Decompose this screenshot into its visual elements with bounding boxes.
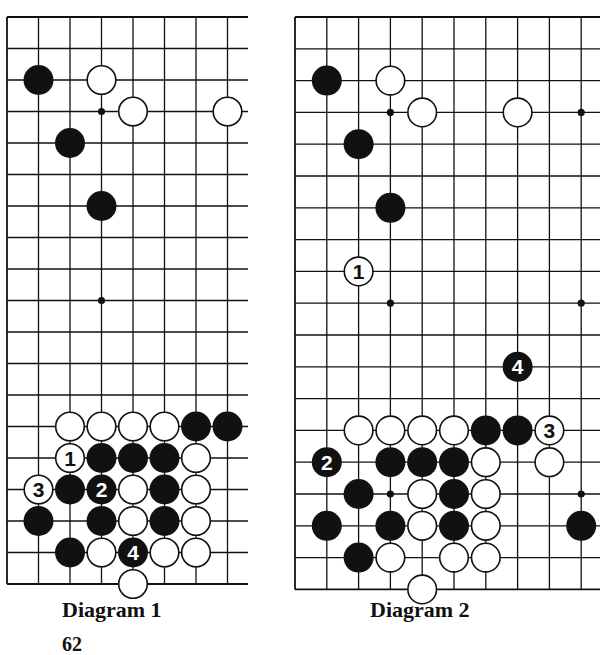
black-stone (471, 415, 501, 445)
diagram-1-caption: Diagram 1 (62, 597, 162, 623)
white-stone (472, 480, 501, 509)
white-stone (376, 416, 405, 445)
svg-text:3: 3 (544, 419, 556, 442)
star-point-icon (387, 300, 394, 307)
black-stone (344, 479, 374, 509)
svg-text:1: 1 (353, 260, 365, 283)
black-stone-move-2: 2 (312, 447, 342, 477)
white-stone-move-1: 1 (344, 257, 373, 286)
white-stone (376, 66, 405, 95)
white-stone (472, 512, 501, 541)
star-point-icon (578, 109, 585, 116)
svg-text:2: 2 (321, 451, 333, 474)
black-stone-move-4: 4 (503, 352, 533, 382)
black-stone (312, 511, 342, 541)
white-stone (535, 448, 564, 477)
white-stone (440, 543, 469, 572)
star-point-icon (578, 490, 585, 497)
black-stone (439, 447, 469, 477)
white-stone (472, 543, 501, 572)
go-board-diagram-2: 1432 (0, 0, 611, 610)
white-stone (440, 416, 469, 445)
black-stone (439, 479, 469, 509)
white-stone-move-3: 3 (535, 416, 564, 445)
black-stone (503, 415, 533, 445)
black-stone (375, 193, 405, 223)
black-stone (375, 447, 405, 477)
white-stone (408, 416, 437, 445)
white-stone (408, 480, 437, 509)
black-stone (566, 511, 596, 541)
black-stone (344, 543, 374, 573)
white-stone (408, 98, 437, 127)
white-stone (472, 448, 501, 477)
black-stone (312, 66, 342, 96)
black-stone (439, 511, 469, 541)
black-stone (344, 129, 374, 159)
star-point-icon (387, 109, 394, 116)
svg-text:4: 4 (512, 355, 524, 378)
white-stone (503, 98, 532, 127)
white-stone (408, 512, 437, 541)
star-point-icon (578, 300, 585, 307)
page-number: 62 (62, 633, 82, 655)
black-stone (375, 511, 405, 541)
black-stone (407, 447, 437, 477)
star-point-icon (387, 490, 394, 497)
white-stone (376, 543, 405, 572)
white-stone (344, 416, 373, 445)
diagram-2-caption: Diagram 2 (370, 597, 470, 623)
